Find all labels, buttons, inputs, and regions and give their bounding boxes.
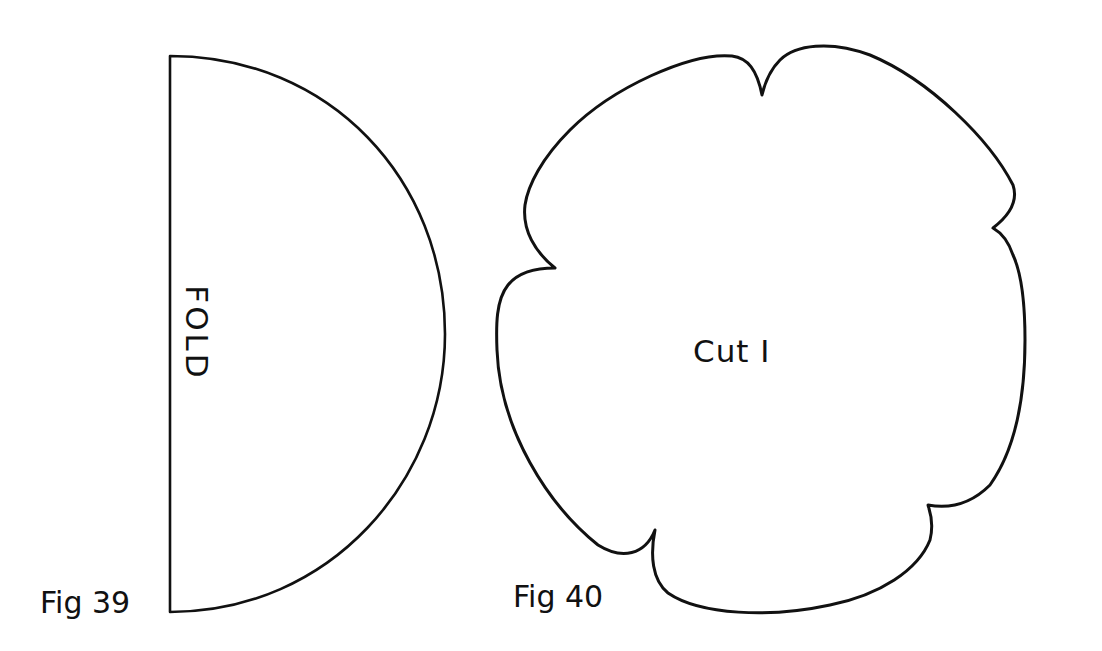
- fig40-scalloped-shape: [497, 46, 1025, 613]
- fig39-caption: Fig 39: [40, 588, 130, 618]
- cut-instruction-label: Cut I: [693, 336, 770, 367]
- fig40-caption: Fig 40: [513, 582, 603, 612]
- diagram-drawing: [0, 0, 1102, 651]
- pattern-diagram: FOLD Fig 39 Cut I Fig 40: [0, 0, 1102, 651]
- fold-label: FOLD: [181, 285, 212, 380]
